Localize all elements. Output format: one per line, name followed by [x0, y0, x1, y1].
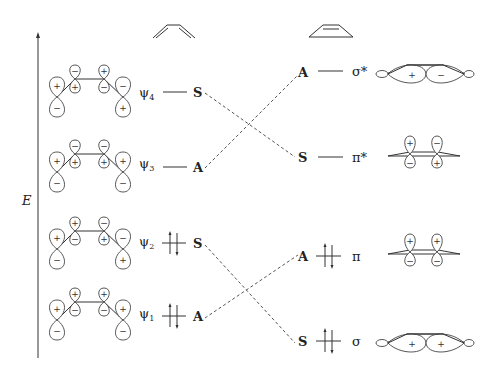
butadiene-mo-3: +−−+−++− — [50, 140, 131, 192]
cyclobutene-levels: A σ* S π* A π S σ — [297, 64, 368, 354]
svg-text:+: + — [53, 156, 61, 166]
sigma-symmetry: S — [298, 334, 307, 349]
svg-text:+: + — [119, 255, 127, 265]
pi-orbital: +−+− — [388, 234, 460, 266]
psi1-symmetry: A — [192, 309, 204, 324]
psi1-label: ψ1 — [139, 306, 154, 323]
sigma-electron-pair — [316, 328, 341, 354]
butadiene-levels: ψ4 S ψ3 A ψ2 S ψ1 A — [139, 85, 204, 329]
svg-text:−: − — [119, 326, 127, 336]
svg-text:+: + — [71, 289, 79, 299]
pi-electron-pair — [316, 243, 341, 269]
svg-text:−: − — [406, 256, 414, 266]
sigma-orbital: ++ — [376, 334, 474, 352]
psi3-symmetry: A — [192, 160, 204, 175]
svg-text:+: + — [408, 339, 416, 349]
svg-text:−: − — [119, 81, 127, 91]
svg-text:−: − — [71, 305, 79, 315]
svg-text:−: − — [53, 178, 61, 188]
cyclobutene-icon — [309, 25, 353, 37]
svg-text:−: − — [433, 256, 441, 266]
svg-text:+: + — [437, 339, 445, 349]
psi4-label: ψ4 — [139, 85, 154, 102]
pi-star-orbital: +−−+ — [388, 136, 460, 168]
svg-text:+: + — [433, 236, 441, 246]
svg-text:−: − — [53, 255, 61, 265]
butadiene-mo-1: +−+−+−+− — [50, 288, 131, 340]
svg-text:−: − — [119, 178, 127, 188]
svg-text:+: + — [71, 218, 79, 228]
svg-text:+: + — [100, 289, 108, 299]
psi2-electron-pair — [162, 231, 186, 256]
svg-text:−: − — [437, 70, 445, 80]
svg-text:+: + — [433, 158, 441, 168]
svg-text:+: + — [408, 70, 416, 80]
psi3-label: ψ3 — [139, 156, 154, 173]
psi1-electron-pair — [162, 303, 186, 329]
svg-text:+: + — [53, 304, 61, 314]
energy-axis: E — [21, 32, 40, 358]
correlation-lines — [205, 75, 298, 343]
psi4-symmetry: S — [193, 85, 202, 100]
svg-text:+: + — [119, 304, 127, 314]
svg-text:−: − — [406, 158, 414, 168]
psi2-label: ψ2 — [139, 234, 154, 251]
svg-text:+: + — [100, 157, 108, 167]
svg-text:−: − — [53, 326, 61, 336]
svg-text:+: + — [406, 138, 414, 148]
svg-text:−: − — [119, 233, 127, 243]
svg-text:+: + — [53, 81, 61, 91]
sigma-label: σ — [352, 334, 361, 349]
svg-text:+: + — [71, 82, 79, 92]
svg-text:−: − — [71, 66, 79, 76]
svg-text:−: − — [100, 305, 108, 315]
pi-symmetry: A — [297, 249, 309, 264]
svg-text:−: − — [71, 141, 79, 151]
svg-text:−: − — [71, 234, 79, 244]
svg-text:+: + — [119, 156, 127, 166]
svg-text:−: − — [100, 141, 108, 151]
pi-label: π — [352, 249, 361, 264]
svg-text:+: + — [100, 66, 108, 76]
orbital-correlation-diagram: E +−−++−−++−−+−++−+−+−−+−++−+−+−+− ψ4 S … — [0, 0, 495, 382]
svg-text:−: − — [53, 103, 61, 113]
butadiene-icon — [153, 25, 195, 38]
svg-text:−: − — [100, 82, 108, 92]
energy-axis-label: E — [21, 193, 32, 208]
svg-text:+: + — [71, 157, 79, 167]
sigma-star-label: σ* — [352, 64, 368, 79]
svg-text:+: + — [406, 236, 414, 246]
pi-star-label: π* — [352, 150, 368, 165]
svg-text:+: + — [53, 233, 61, 243]
sigma-star-symmetry: A — [297, 65, 309, 80]
butadiene-mo-2: +−+−−+−+ — [50, 217, 131, 269]
psi2-symmetry: S — [193, 236, 202, 251]
svg-text:−: − — [100, 218, 108, 228]
svg-text:+: + — [119, 103, 127, 113]
butadiene-mo-4: +−−++−−+ — [50, 65, 131, 117]
svg-text:−: − — [433, 138, 441, 148]
sigma-star-orbital: +− — [376, 65, 474, 83]
pi-star-symmetry: S — [298, 150, 307, 165]
svg-text:+: + — [100, 234, 108, 244]
